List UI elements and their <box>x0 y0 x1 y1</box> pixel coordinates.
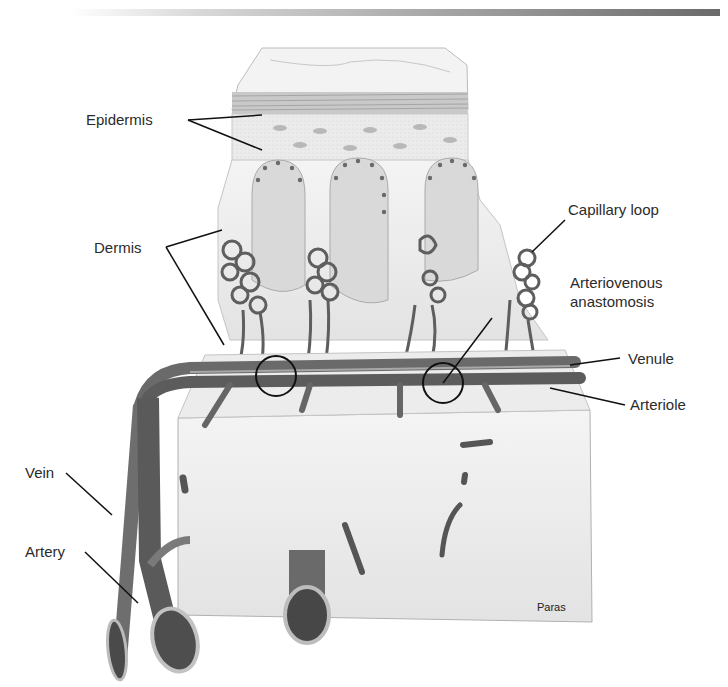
epidermis-layer <box>232 48 468 164</box>
illustrator-credit: Paras <box>537 601 566 613</box>
label-av-anastomosis-line2: anastomosis <box>570 293 654 311</box>
label-artery: Artery <box>25 543 65 561</box>
skin-diagram-illustration <box>0 0 728 687</box>
label-av-anastomosis-line1: Arteriovenous <box>570 274 663 292</box>
subcutaneous-block <box>178 410 592 622</box>
label-capillary-loop: Capillary loop <box>568 201 659 219</box>
cut-vessel-bottom <box>285 550 329 643</box>
label-dermis: Dermis <box>94 239 142 257</box>
label-vein: Vein <box>25 464 54 482</box>
label-arteriole: Arteriole <box>630 396 686 414</box>
dermis-layer <box>218 158 548 340</box>
label-venule: Venule <box>628 350 674 368</box>
label-epidermis: Epidermis <box>86 111 153 129</box>
